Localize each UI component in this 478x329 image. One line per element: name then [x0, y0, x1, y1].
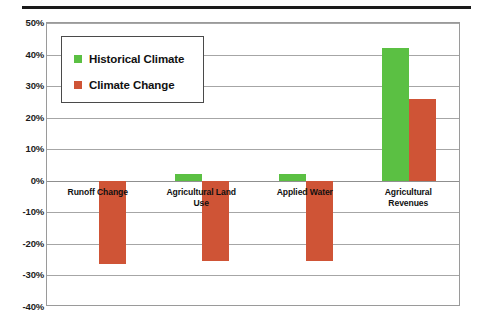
legend-item-climate-change: Climate Change	[74, 72, 203, 98]
legend-swatch-green-icon	[74, 55, 82, 63]
legend-label-climate-change: Climate Change	[89, 79, 175, 91]
legend-swatch-orange-icon	[74, 81, 82, 89]
category-label-line: Runoff Change	[46, 187, 150, 198]
y-axis: 50%40%30%20%10%0%-10%-20%-30%-40%	[0, 22, 44, 306]
y-axis-tick-label: -10%	[2, 206, 44, 217]
bar-historical-climate	[175, 174, 202, 180]
legend-label-historical-climate: Historical Climate	[89, 53, 184, 65]
category-label: Agricultural LandUse	[150, 187, 254, 209]
category-label-line: Applied Water	[253, 187, 357, 198]
y-axis-tick-label: -20%	[2, 237, 44, 248]
chart-legend: Historical Climate Climate Change	[61, 36, 204, 103]
gridline	[47, 275, 459, 276]
top-divider-rule	[22, 6, 471, 9]
bar-historical-climate	[279, 174, 306, 180]
category-label-line: Use	[150, 198, 254, 209]
y-axis-tick-label: 10%	[2, 143, 44, 154]
category-label: AgriculturalRevenues	[357, 187, 461, 209]
category-label-line: Agricultural	[357, 187, 461, 198]
category-label-line: Revenues	[357, 198, 461, 209]
y-axis-tick-label: 0%	[2, 174, 44, 185]
y-axis-tick-label: 30%	[2, 80, 44, 91]
bar-climate-change	[409, 99, 436, 181]
gridline	[47, 23, 459, 24]
category-label: Applied Water	[253, 187, 357, 198]
category-label: Runoff Change	[46, 187, 150, 198]
legend-item-historical-climate: Historical Climate	[74, 46, 203, 72]
bar-historical-climate	[382, 48, 409, 181]
y-axis-tick-label: 20%	[2, 111, 44, 122]
y-axis-tick-label: -30%	[2, 269, 44, 280]
y-axis-tick-label: 40%	[2, 48, 44, 59]
chart-figure: 50%40%30%20%10%0%-10%-20%-30%-40% Histor…	[0, 0, 478, 329]
y-axis-tick-label: -40%	[2, 301, 44, 312]
category-label-line: Agricultural Land	[150, 187, 254, 198]
y-axis-tick-label: 50%	[2, 17, 44, 28]
